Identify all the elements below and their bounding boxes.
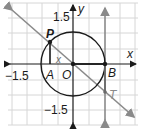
y-tick-bottom: −1.5 <box>44 103 68 117</box>
point-b <box>103 62 107 66</box>
point-t <box>103 90 107 94</box>
label-o: O <box>62 68 71 82</box>
angle-label: x <box>55 54 62 65</box>
point-o <box>71 62 75 66</box>
x-axis-label: x <box>126 47 134 61</box>
label-a: A <box>45 68 54 82</box>
y-tick-top: 1.5 <box>53 10 70 24</box>
label-b: B <box>108 66 116 80</box>
x-tick-left: −1.5 <box>5 69 29 83</box>
unit-circle-diagram: 1.5 y x −1.5 −1.5 P A O B T x <box>0 0 142 129</box>
label-p: P <box>46 27 55 41</box>
y-axis-label: y <box>77 2 85 16</box>
